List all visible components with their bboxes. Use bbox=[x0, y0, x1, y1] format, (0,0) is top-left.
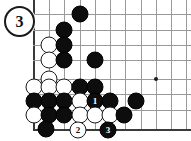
stone-black bbox=[56, 52, 73, 69]
go-diagram: 123 3 bbox=[0, 0, 191, 141]
stone-black bbox=[87, 52, 104, 69]
figure-number-label: 3 bbox=[16, 13, 24, 31]
stone-black-move-3: 3 bbox=[100, 122, 117, 139]
star-point bbox=[154, 77, 158, 81]
grid-line-vertical bbox=[186, 0, 187, 131]
stone-black bbox=[56, 107, 73, 124]
grid-line-vertical bbox=[141, 0, 142, 131]
stone-move-number: 3 bbox=[101, 123, 116, 138]
stone-move-number: 2 bbox=[71, 123, 86, 138]
stone-black bbox=[128, 93, 145, 110]
stone-black bbox=[72, 6, 89, 23]
stone-black bbox=[38, 121, 55, 138]
grid-line-vertical bbox=[171, 0, 172, 131]
figure-number-badge: 3 bbox=[4, 6, 35, 37]
grid-line-horizontal bbox=[33, 14, 191, 15]
stone-black bbox=[116, 107, 133, 124]
stone-white-move-2: 2 bbox=[70, 122, 87, 139]
grid-line-vertical bbox=[156, 0, 157, 131]
